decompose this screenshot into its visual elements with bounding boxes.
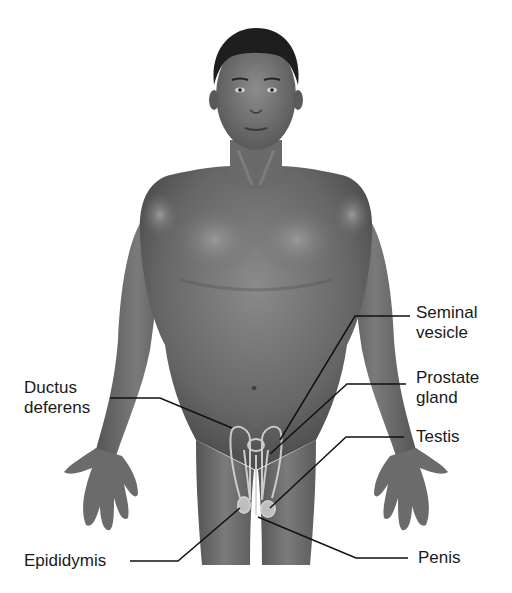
anatomy-diagram: Seminal vesicle Prostate gland Testis Du… xyxy=(0,0,512,593)
label-seminal-vesicle: Seminal vesicle xyxy=(416,303,477,343)
label-epididymis: Epididymis xyxy=(24,551,106,571)
label-penis: Penis xyxy=(418,548,461,568)
label-prostate-gland: Prostate gland xyxy=(416,368,479,408)
right-hand xyxy=(374,448,448,530)
label-testis: Testis xyxy=(416,427,459,447)
male-figure-illustration xyxy=(0,0,512,593)
label-ductus-deferens: Ductus deferens xyxy=(24,378,90,418)
left-hand xyxy=(64,448,138,530)
